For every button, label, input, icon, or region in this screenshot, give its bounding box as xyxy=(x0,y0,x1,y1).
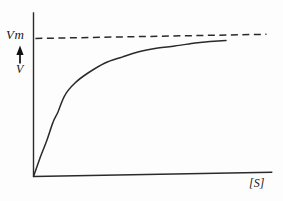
x-axis-label: [S] xyxy=(249,177,264,189)
y-axis-arrow-icon xyxy=(16,46,23,64)
arrow-head xyxy=(16,46,23,56)
y-axis-label: V xyxy=(16,63,23,75)
velocity-curve xyxy=(34,41,227,177)
chart-svg xyxy=(0,0,283,201)
vm-asymptote-dashed-line xyxy=(35,34,266,38)
enzyme-kinetics-figure: Vm V [S] xyxy=(0,0,283,201)
vm-label: Vm xyxy=(6,28,24,41)
x-axis xyxy=(34,172,273,176)
